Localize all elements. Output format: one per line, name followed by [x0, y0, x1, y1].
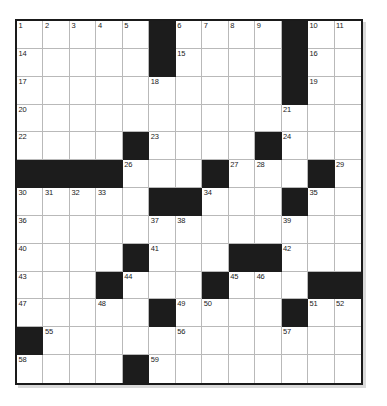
grid-cell[interactable]	[43, 49, 69, 77]
grid-cell[interactable]	[229, 327, 255, 355]
grid-cell[interactable]: 7	[202, 21, 228, 49]
grid-cell[interactable]	[70, 327, 96, 355]
grid-cell[interactable]: 1	[17, 21, 43, 49]
grid-cell[interactable]: 28	[255, 160, 281, 188]
grid-cell[interactable]	[202, 132, 228, 160]
grid-cell[interactable]	[202, 244, 228, 272]
grid-cell[interactable]: 51	[308, 299, 334, 327]
grid-cell[interactable]	[335, 49, 361, 77]
grid-cell[interactable]	[308, 132, 334, 160]
grid-cell[interactable]	[123, 77, 149, 105]
grid-cell[interactable]	[202, 327, 228, 355]
grid-cell[interactable]	[96, 327, 122, 355]
grid-cell[interactable]	[43, 216, 69, 244]
grid-cell[interactable]	[335, 244, 361, 272]
grid-cell[interactable]	[176, 355, 202, 383]
grid-cell[interactable]	[43, 77, 69, 105]
grid-cell[interactable]: 58	[17, 355, 43, 383]
grid-cell[interactable]	[70, 77, 96, 105]
grid-cell[interactable]: 35	[308, 188, 334, 216]
grid-cell[interactable]	[176, 244, 202, 272]
grid-cell[interactable]	[96, 216, 122, 244]
grid-cell[interactable]	[96, 244, 122, 272]
grid-cell[interactable]: 37	[149, 216, 175, 244]
grid-cell[interactable]	[229, 216, 255, 244]
grid-cell[interactable]: 40	[17, 244, 43, 272]
grid-cell[interactable]: 31	[43, 188, 69, 216]
grid-cell[interactable]: 3	[70, 21, 96, 49]
grid-cell[interactable]: 17	[17, 77, 43, 105]
grid-cell[interactable]	[149, 327, 175, 355]
grid-cell[interactable]	[96, 49, 122, 77]
grid-cell[interactable]: 42	[282, 244, 308, 272]
grid-cell[interactable]: 38	[176, 216, 202, 244]
grid-cell[interactable]	[70, 105, 96, 133]
grid-cell[interactable]	[308, 105, 334, 133]
grid-cell[interactable]	[282, 272, 308, 300]
grid-cell[interactable]: 55	[43, 327, 69, 355]
grid-cell[interactable]	[335, 77, 361, 105]
grid-cell[interactable]: 39	[282, 216, 308, 244]
grid-cell[interactable]	[176, 132, 202, 160]
grid-cell[interactable]: 52	[335, 299, 361, 327]
grid-cell[interactable]	[229, 77, 255, 105]
grid-cell[interactable]: 5	[123, 21, 149, 49]
crossword-container[interactable]: 1234567891011141516171819202122232426272…	[15, 19, 363, 385]
grid-cell[interactable]	[70, 299, 96, 327]
grid-cell[interactable]	[43, 272, 69, 300]
grid-cell[interactable]	[123, 105, 149, 133]
grid-cell[interactable]	[70, 272, 96, 300]
grid-cell[interactable]	[282, 160, 308, 188]
grid-cell[interactable]	[229, 49, 255, 77]
grid-cell[interactable]: 33	[96, 188, 122, 216]
grid-cell[interactable]: 22	[17, 132, 43, 160]
grid-cell[interactable]	[255, 299, 281, 327]
grid-cell[interactable]: 32	[70, 188, 96, 216]
grid-cell[interactable]	[335, 105, 361, 133]
grid-cell[interactable]	[229, 355, 255, 383]
grid-cell[interactable]	[202, 105, 228, 133]
grid-cell[interactable]	[202, 216, 228, 244]
grid-cell[interactable]: 24	[282, 132, 308, 160]
grid-cell[interactable]: 47	[17, 299, 43, 327]
grid-cell[interactable]	[43, 299, 69, 327]
grid-cell[interactable]	[123, 216, 149, 244]
grid-cell[interactable]	[70, 244, 96, 272]
grid-cell[interactable]: 10	[308, 21, 334, 49]
grid-cell[interactable]	[229, 105, 255, 133]
grid-cell[interactable]	[335, 355, 361, 383]
grid-cell[interactable]	[255, 49, 281, 77]
grid-cell[interactable]: 16	[308, 49, 334, 77]
grid-cell[interactable]	[255, 105, 281, 133]
grid-cell[interactable]	[96, 105, 122, 133]
grid-cell[interactable]	[43, 244, 69, 272]
crossword-grid[interactable]: 1234567891011141516171819202122232426272…	[17, 21, 361, 383]
grid-cell[interactable]	[255, 327, 281, 355]
grid-cell[interactable]	[43, 355, 69, 383]
grid-cell[interactable]	[123, 188, 149, 216]
grid-cell[interactable]: 43	[17, 272, 43, 300]
grid-cell[interactable]	[70, 355, 96, 383]
grid-cell[interactable]: 49	[176, 299, 202, 327]
grid-cell[interactable]: 57	[282, 327, 308, 355]
grid-cell[interactable]: 41	[149, 244, 175, 272]
grid-cell[interactable]	[70, 216, 96, 244]
grid-cell[interactable]	[308, 244, 334, 272]
grid-cell[interactable]: 15	[176, 49, 202, 77]
grid-cell[interactable]	[43, 132, 69, 160]
grid-cell[interactable]	[229, 132, 255, 160]
grid-cell[interactable]	[202, 355, 228, 383]
grid-cell[interactable]: 2	[43, 21, 69, 49]
grid-cell[interactable]: 34	[202, 188, 228, 216]
grid-cell[interactable]: 23	[149, 132, 175, 160]
grid-cell[interactable]: 59	[149, 355, 175, 383]
grid-cell[interactable]: 45	[229, 272, 255, 300]
grid-cell[interactable]: 9	[255, 21, 281, 49]
grid-cell[interactable]	[202, 77, 228, 105]
grid-cell[interactable]	[96, 355, 122, 383]
grid-cell[interactable]	[229, 188, 255, 216]
grid-cell[interactable]: 26	[123, 160, 149, 188]
grid-cell[interactable]: 21	[282, 105, 308, 133]
grid-cell[interactable]: 48	[96, 299, 122, 327]
grid-cell[interactable]: 27	[229, 160, 255, 188]
